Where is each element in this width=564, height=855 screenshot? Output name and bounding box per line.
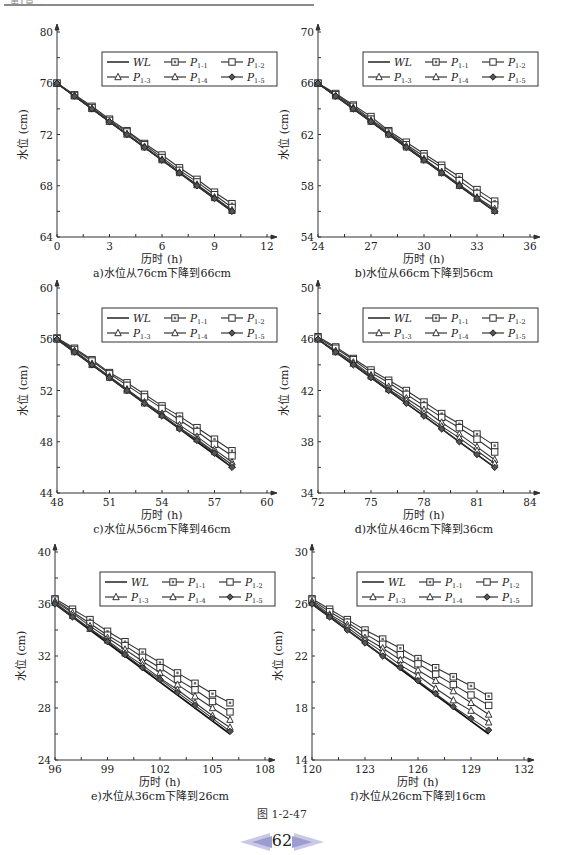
page-number-text: 62	[232, 830, 332, 852]
x-axis-label: 历时 (h)	[397, 776, 438, 789]
y-tick-label: 30	[295, 546, 308, 558]
chart-f: 1201231261291321418222630水位 (cm)历时 (h)f)…	[0, 0, 564, 855]
legend: WLP1-1P1-2P1-3P1-4P1-5	[357, 572, 532, 606]
series-P1-1	[309, 596, 492, 700]
legend-entry-WL: WL	[388, 576, 406, 588]
y-tick-label: 26	[295, 598, 309, 610]
x-tick-label: 126	[408, 763, 428, 775]
x-tick-label: 132	[514, 763, 534, 775]
y-tick-label: 18	[295, 702, 308, 714]
y-tick-label: 22	[295, 650, 308, 662]
chart-caption: f)水位从26cm下降到16cm	[350, 789, 486, 803]
x-tick-label: 129	[461, 763, 481, 775]
page-number: 62	[232, 830, 332, 854]
chart-f-plot: 1201231261291321418222630水位 (cm)历时 (h)f)…	[0, 0, 564, 855]
x-tick-label: 123	[355, 763, 375, 775]
y-tick-label: 14	[295, 754, 309, 766]
y-axis-label: 水位 (cm)	[271, 631, 285, 682]
figure-label: 图 1-2-47	[232, 805, 332, 821]
